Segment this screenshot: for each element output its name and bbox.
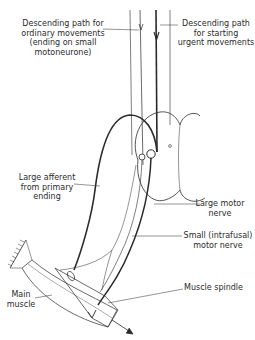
diagram-canvas: Descending path for ordinary movements (… xyxy=(0,0,255,340)
spinal-cord-section xyxy=(135,112,205,201)
label-large-afferent: Large afferent from primary ending xyxy=(16,173,78,202)
label-descending-ordinary: Descending path for ordinary movements (… xyxy=(20,19,106,57)
label-descending-urgent: Descending path for starting urgent move… xyxy=(176,19,255,48)
label-large-motor-nerve: Large motor nerve xyxy=(190,199,250,218)
tendon-attachment xyxy=(8,240,32,268)
main-muscle xyxy=(22,260,117,327)
large-afferent-fiber xyxy=(74,115,157,270)
label-muscle-spindle: Muscle spindle xyxy=(184,283,243,293)
stretch-arrow xyxy=(112,320,133,334)
descending-paths xyxy=(130,10,170,165)
muscle-spindle xyxy=(55,268,118,327)
leader-lines xyxy=(35,25,200,303)
label-main-muscle: Main muscle xyxy=(6,290,36,309)
motoneurones xyxy=(139,150,155,160)
label-small-motor-nerve: Small (intrafusal) motor nerve xyxy=(181,231,255,250)
